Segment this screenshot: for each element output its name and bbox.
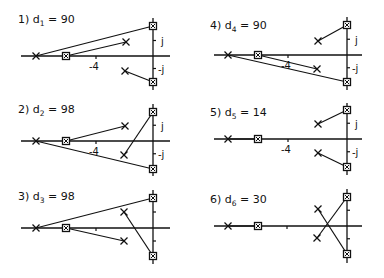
pole-marker-icon [315,206,322,213]
locus-branch [66,42,126,56]
imag-label-minus-j: -j [352,63,358,74]
tick-label-minus-4: -4 [89,61,99,72]
zero-marker-icon [255,52,262,59]
zero-marker-icon [344,107,351,114]
locus-branch [66,126,125,141]
pole-marker-icon [315,150,322,157]
panel-label: 3) d3 = 98 [18,190,75,205]
imag-label-j: j [160,121,164,132]
zero-marker-icon [344,22,351,29]
locus-branch [318,110,347,124]
panel-4: -4j-j4) d4 = 90 [210,17,362,90]
imag-label-j: j [354,35,358,46]
locus-branch [318,153,347,167]
locus-branch [125,71,153,82]
pole-marker-icon [315,121,322,128]
pole-marker-icon [315,38,322,45]
zero-marker-icon [150,166,157,173]
panel-5: -4j-j5) d5 = 14 [210,103,362,175]
imag-label-j: j [160,36,164,47]
zero-marker-icon [344,164,351,171]
panel-3: 3) d3 = 98 [18,190,170,264]
zero-marker-icon [150,79,157,86]
zero-marker-icon [150,253,157,260]
imag-label-minus-j: -j [158,149,164,160]
zero-marker-icon [63,53,70,60]
zero-marker-icon [150,23,157,30]
zero-marker-icon [255,136,262,143]
pole-marker-icon [122,123,129,130]
imag-label-j: j [354,119,358,130]
imag-label-minus-j: -j [158,64,164,75]
imag-label-minus-j: -j [352,147,358,158]
locus-branch [66,228,124,241]
zero-marker-icon [150,109,157,116]
pole-marker-icon [121,209,128,216]
pole-marker-icon [314,235,321,242]
pole-marker-icon [122,68,129,75]
panel-label: 6) d6 = 30 [210,193,267,208]
locus-branch [124,112,153,155]
panel-6: 6) d6 = 30 [210,189,362,263]
locus-branch [36,26,153,56]
panel-label: 1) d1 = 90 [18,13,75,28]
locus-branch [317,197,347,238]
panel-label: 4) d4 = 90 [210,19,267,34]
zero-marker-icon [255,223,262,230]
panel-2: -4j-j2) d2 = 98 [18,103,170,176]
zero-marker-icon [344,194,351,201]
zero-marker-icon [63,225,70,232]
root-locus-canvas: -4j-j1) d1 = 90-4j-j2) d2 = 983) d3 = 98… [0,0,384,278]
locus-branch [318,25,347,41]
zero-marker-icon [344,251,351,258]
panel-label: 5) d5 = 14 [210,106,267,121]
panel-1: -4j-j1) d1 = 90 [18,13,170,90]
panel-label: 2) d2 = 98 [18,103,75,118]
zero-marker-icon [150,195,157,202]
locus-branch [124,212,153,256]
zero-marker-icon [344,79,351,86]
tick-label-minus-4: -4 [281,144,291,155]
root-locus-figure: -4j-j1) d1 = 90-4j-j2) d2 = 983) d3 = 98… [0,0,384,278]
pole-marker-icon [121,152,128,159]
zero-marker-icon [63,138,70,145]
